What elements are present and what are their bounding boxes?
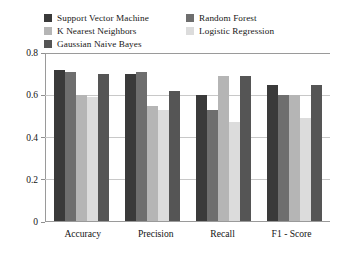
bar (76, 95, 87, 221)
y-tick-label-0.8: 0.8 (26, 48, 38, 58)
legend-label-gaussian-naive-bayes: Gaussian Naive Bayes (57, 39, 142, 49)
bar (65, 72, 76, 221)
chart-legend: Support Vector Machine K Nearest Neighbo… (44, 11, 316, 51)
y-tick-label-0.2: 0.2 (26, 175, 38, 185)
bar (147, 106, 158, 222)
bar (136, 72, 147, 221)
bar (300, 118, 311, 221)
y-tick-label-0.4: 0.4 (26, 133, 38, 143)
y-tick-mark-0.2 (41, 179, 45, 180)
bar (311, 85, 322, 222)
bar (207, 110, 218, 221)
bar (278, 95, 289, 221)
legend-item-support-vector-machine: Support Vector Machine (44, 11, 186, 24)
x-tick-label-f1-score: F1 - Score (272, 228, 312, 239)
legend-swatch-icon-random-forest (186, 14, 194, 22)
bar (218, 76, 229, 221)
y-tick-mark-0.8 (41, 53, 45, 54)
bar-groups (46, 53, 330, 221)
bar (125, 74, 136, 221)
x-axis-tick-labels: AccuracyPrecisionRecallF1 - Score (46, 228, 330, 239)
bar (98, 74, 109, 221)
legend-label-random-forest: Random Forest (199, 13, 257, 23)
y-tick-mark-0 (41, 222, 45, 223)
bar-chart-figure: Support Vector Machine K Nearest Neighbo… (0, 0, 348, 254)
x-axis-line (45, 221, 330, 222)
y-tick-mark-0.4 (41, 137, 45, 138)
bar (87, 97, 98, 221)
bar (229, 122, 240, 221)
x-tick-label-accuracy: Accuracy (64, 228, 101, 239)
legend-label-k-nearest-neighbors: K Nearest Neighbors (57, 26, 136, 36)
bar-group-precision (125, 53, 180, 221)
legend-label-logistic-regression: Logistic Regression (199, 26, 274, 36)
y-tick-label-0.6: 0.6 (26, 90, 38, 100)
bar (240, 76, 251, 221)
bar (267, 85, 278, 222)
legend-label-support-vector-machine: Support Vector Machine (57, 13, 149, 23)
x-tick-label-precision: Precision (138, 228, 174, 239)
legend-swatch-icon-gaussian-naive-bayes (44, 40, 52, 48)
bar (196, 95, 207, 221)
plot-area: 00.20.40.60.8 (45, 53, 330, 222)
legend-item-gaussian-naive-bayes: Gaussian Naive Bayes (44, 37, 186, 50)
legend-swatch-icon-k-nearest-neighbors (44, 27, 52, 35)
bar (289, 95, 300, 221)
bar (54, 70, 65, 221)
y-tick-label-0: 0 (33, 217, 38, 227)
legend-item-random-forest: Random Forest (186, 11, 316, 24)
legend-swatch-icon-logistic-regression (186, 27, 194, 35)
bar-group-f1-score (267, 53, 322, 221)
bar-group-accuracy (54, 53, 109, 221)
x-tick-label-recall: Recall (210, 228, 235, 239)
bar (169, 91, 180, 221)
legend-item-k-nearest-neighbors: K Nearest Neighbors (44, 24, 186, 37)
bar-group-recall (196, 53, 251, 221)
legend-item-logistic-regression: Logistic Regression (186, 24, 316, 37)
y-tick-mark-0.6 (41, 95, 45, 96)
bar (158, 110, 169, 221)
legend-swatch-icon-support-vector-machine (44, 14, 52, 22)
